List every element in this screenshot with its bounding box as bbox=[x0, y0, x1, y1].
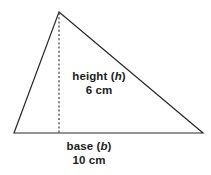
triangle-diagram: height (h) 6 cm base (b) 10 cm bbox=[0, 0, 211, 175]
base-label: base (b) 10 cm bbox=[39, 139, 139, 167]
base-label-name-text: base ( bbox=[67, 140, 101, 152]
base-label-name: base (b) bbox=[39, 139, 139, 153]
height-label-name-close: ) bbox=[122, 70, 126, 82]
base-variable: b bbox=[100, 140, 107, 152]
height-label-name-text: height ( bbox=[72, 70, 114, 82]
height-value: 6 cm bbox=[49, 83, 149, 97]
height-label: height (h) 6 cm bbox=[49, 69, 149, 97]
height-label-name: height (h) bbox=[49, 69, 149, 83]
base-label-name-close: ) bbox=[108, 140, 112, 152]
base-value: 10 cm bbox=[39, 153, 139, 167]
height-variable: h bbox=[115, 70, 122, 82]
